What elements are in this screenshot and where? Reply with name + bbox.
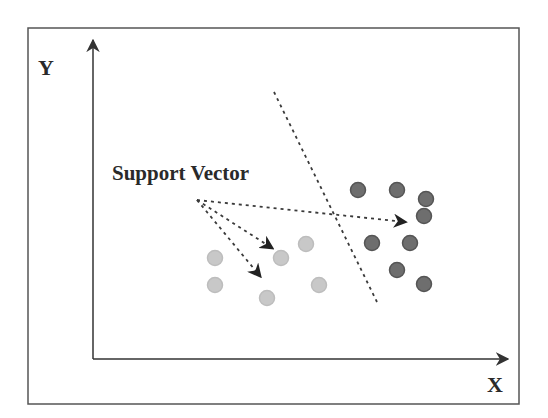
data-point: [274, 251, 289, 266]
data-point: [403, 236, 418, 251]
y-axis-label: Y: [38, 55, 54, 80]
data-point: [419, 192, 434, 207]
data-point: [299, 237, 314, 252]
data-point: [208, 278, 223, 293]
class-b-points: [208, 237, 327, 306]
support-vector-arrow: [197, 200, 260, 276]
data-point: [365, 236, 380, 251]
data-point: [390, 263, 405, 278]
svm-diagram: Y X Support Vector: [0, 0, 548, 418]
support-vector-label: Support Vector: [112, 161, 249, 185]
data-point: [417, 209, 432, 224]
data-point: [417, 277, 432, 292]
support-vector-arrow: [197, 200, 405, 222]
x-axis-label: X: [487, 372, 503, 397]
data-point: [208, 251, 223, 266]
diagram-frame: [28, 28, 519, 404]
data-point: [390, 183, 405, 198]
data-point: [351, 183, 366, 198]
data-point: [312, 278, 327, 293]
data-point: [260, 291, 275, 306]
